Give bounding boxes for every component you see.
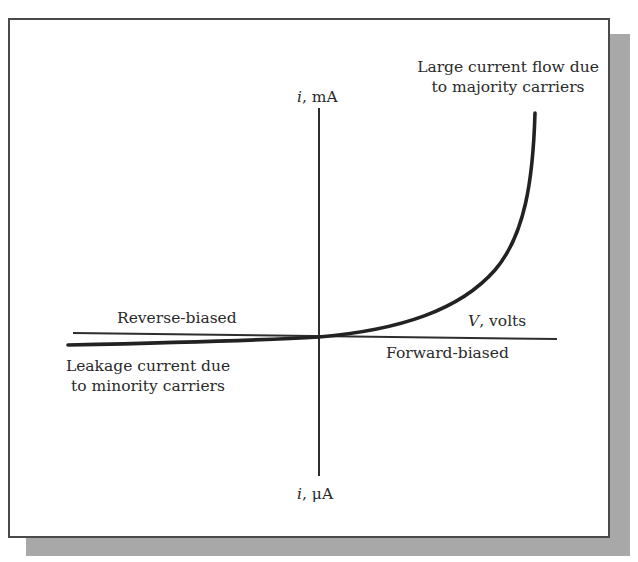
- current-unit-ua: , μA: [302, 485, 333, 503]
- forward-biased-label: Forward-biased: [386, 343, 509, 363]
- annotation-line-2: to majority carriers: [398, 77, 618, 97]
- voltage-variable: V: [468, 312, 479, 330]
- annotation-line-1: Large current flow due: [398, 57, 618, 77]
- forward-current-annotation: Large current flow due to majority carri…: [398, 57, 618, 97]
- current-unit-ma: , mA: [302, 88, 338, 106]
- y-axis-top-label: i, mA: [297, 87, 338, 107]
- y-axis-bottom-label: i, μA: [297, 484, 333, 504]
- annotation-line-2: to minority carriers: [50, 376, 246, 396]
- annotation-line-1: Leakage current due: [50, 356, 246, 376]
- x-axis-label: V, volts: [468, 311, 526, 331]
- reverse-biased-label: Reverse-biased: [117, 308, 237, 328]
- leakage-current-annotation: Leakage current due to minority carriers: [50, 356, 246, 396]
- voltage-unit: , volts: [479, 312, 526, 330]
